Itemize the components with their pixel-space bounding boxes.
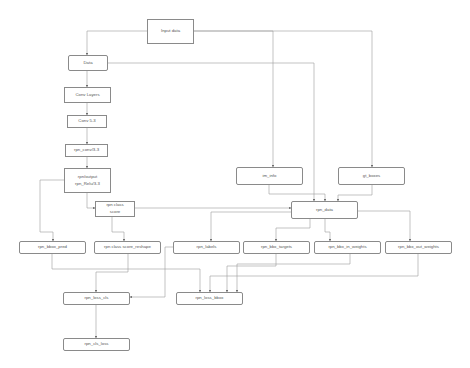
edge-rpn_bbx_in_weights-to-rpn_loss_bbox [237,254,350,292]
node-label: rpn_bbox_pred [38,244,67,251]
node-label: Conv Layers [75,92,99,99]
node-label: rpn_cls_loss [85,341,109,348]
node-label: Data [83,60,92,67]
node-conv-layers: Conv Layers [64,87,111,103]
node-label: im_info [263,173,277,180]
node-rpn-loss-cls: rpn_loss_cls [63,292,130,305]
node-im-info: im_info [236,167,303,185]
edge-rpn_output-to-rpn_bbox_pred [40,180,64,241]
node-label: rpn_bbx_in_weights [328,244,366,251]
node-rpn-cls-score-reshape: rpn class score_reshape [94,241,161,254]
edge-rpn_bbx_out_weights-to-rpn_loss_bbox [210,254,418,292]
node-label: rpn_data [316,207,333,214]
edge-rpn_bbox_pred-to-rpn_loss_bbox [52,254,200,292]
node-rpn-data: rpn_data [291,201,358,219]
node-rpn-labels: rpn_labels [173,241,240,254]
edge-rpn_output-to-rpn_cls_score [87,193,95,208]
node-label: rpn class score_reshape [104,244,151,251]
node-input-data: Input data [147,19,194,44]
node-label: rpn_bbx_out_weights [398,244,439,251]
node-rpn-bbx-targets: rpn_bbx_targets [243,241,310,254]
edge-input_data-to-gt_boxes [194,31,372,167]
node-label: rpn_labels [197,244,217,251]
node-label: Conv 5-3 [78,118,95,125]
edge-rpn_bbx_targets-to-rpn_loss_bbox [227,254,276,292]
edge-input_data-to-im_info [194,31,273,167]
node-label: rpn_loss_bbox [196,295,224,302]
edge-input_data-to-data [87,31,147,55]
node-rpn-cls-score: rpn classscore [95,201,135,217]
node-label: rpn class [106,202,123,209]
node-rpn-bbox-pred: rpn_bbox_pred [19,241,86,254]
node-label: rpn_loss_cls [85,295,109,302]
edge-gt_boxes-to-rpn_data [338,185,372,201]
node-rpn-loss-bbox: rpn_loss_bbox [176,292,243,305]
node-rpn-cls-loss: rpn_cls_loss [63,338,130,351]
node-data: Data [68,55,108,71]
edge-rpn_data-to-rpn_bbx_out_weights [358,211,410,241]
node-label: Input data [161,28,180,35]
node-rpn-conv: rpn_conv/3-3 [65,144,108,157]
node-gt-boxes: gt_boxes [338,167,405,185]
edge-rpn_data-to-rpn_labels [211,212,296,241]
edge-im_info-to-rpn_data [269,185,325,201]
node-label-secondary: rpn_Relu/3-3 [75,181,100,188]
node-rpn-output: rpn/outputrpn_Relu/3-3 [64,168,111,193]
edge-rpn_cls_score-to-rpn_cls_score_reshape [112,217,124,241]
node-label: rpn/output [78,174,97,181]
edge-rpn_cls_score_reshape-to-rpn_loss_cls [96,254,128,292]
edge-rpn_labels-to-rpn_loss_cls [130,247,173,297]
node-label: gt_boxes [363,173,380,180]
edge-rpn_data-to-rpn_bbx_in_weights [325,219,330,241]
edge-rpn_data-to-rpn_bbx_targets [276,219,310,241]
node-label: rpn_bbx_targets [261,244,292,251]
node-conv5-3: Conv 5-3 [67,115,107,128]
node-rpn-bbx-in-weights: rpn_bbx_in_weights [314,241,381,254]
node-rpn-bbx-out-weights: rpn_bbx_out_weights [385,241,452,254]
node-label: rpn_conv/3-3 [74,147,99,154]
node-label-secondary: score [110,209,121,216]
